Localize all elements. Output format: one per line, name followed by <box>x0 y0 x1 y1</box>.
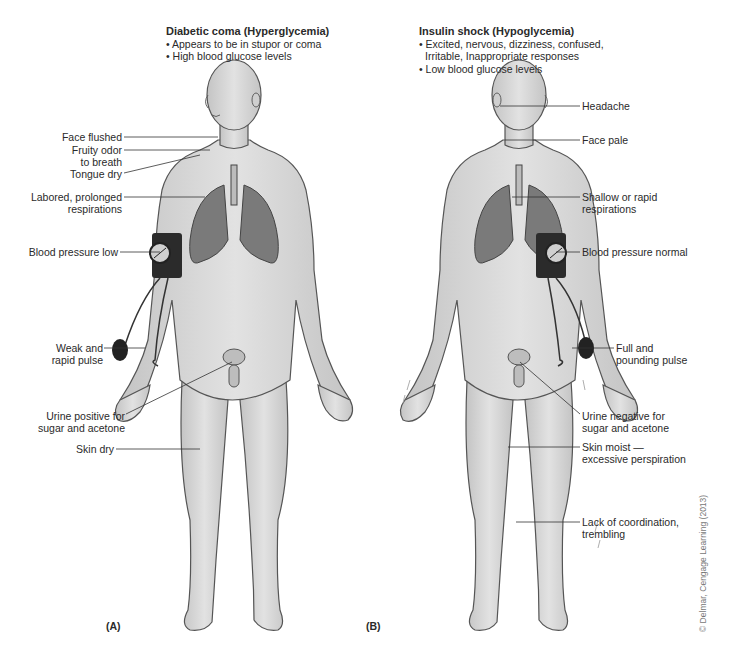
label-excessive-perspiration: excessive perspiration <box>582 453 686 466</box>
label-respirations-a: respirations <box>68 203 122 216</box>
label-lack-coordination: Lack of coordination, <box>582 516 679 529</box>
figure-a-body <box>115 60 352 630</box>
figure-a-bullet-1: • Appears to be in stupor or coma <box>166 38 329 51</box>
figure-a-bullet-2: • High blood glucose levels <box>166 50 329 63</box>
figure-a-title: Diabetic coma (Hyperglycemia) <box>166 25 329 38</box>
label-urine-positive: Urine positive for <box>46 410 125 423</box>
panel-label-b: (B) <box>366 620 381 632</box>
label-pounding-pulse: pounding pulse <box>616 354 687 367</box>
label-weak-pulse: Weak and <box>56 342 103 355</box>
figure-b-bullet-2: • Low blood glucose levels <box>419 63 604 76</box>
label-to-breath: to breath <box>81 156 122 169</box>
copyright-notice: © Delmar, Cengage Learning (2013) <box>698 495 708 632</box>
figure-b-title: Insulin shock (Hypoglycemia) <box>419 25 604 38</box>
label-sugar-acetone-a: sugar and acetone <box>38 422 125 435</box>
label-urine-negative: Urine negative for <box>582 410 665 423</box>
label-fruity-odor: Fruity odor <box>72 144 122 157</box>
label-skin-dry: Skin dry <box>76 443 114 456</box>
label-labored-respirations: Labored, prolonged <box>31 191 122 204</box>
label-tongue-dry: Tongue dry <box>70 168 122 181</box>
anatomy-illustration <box>0 0 731 659</box>
label-face-pale: Face pale <box>582 134 628 147</box>
label-bp-normal: Blood pressure normal <box>582 246 688 259</box>
figure-b-header: Insulin shock (Hypoglycemia) • Excited, … <box>419 25 604 75</box>
label-rapid-pulse: rapid pulse <box>52 354 103 367</box>
figure-b-bullet-1: • Excited, nervous, dizziness, confused, <box>419 38 604 51</box>
figure-a-header: Diabetic coma (Hyperglycemia) • Appears … <box>166 25 329 63</box>
label-full-pulse: Full and <box>616 342 653 355</box>
label-bp-low: Blood pressure low <box>29 246 118 259</box>
label-shallow-respirations: Shallow or rapid <box>582 191 657 204</box>
label-skin-moist: Skin moist — <box>582 441 644 454</box>
label-headache: Headache <box>582 100 630 113</box>
panel-label-a: (A) <box>106 620 121 632</box>
label-respirations-b: respirations <box>582 203 636 216</box>
label-face-flushed: Face flushed <box>62 131 122 144</box>
label-trembling: trembling <box>582 528 625 541</box>
figure-b-bullet-1-cont: Irritable, Inappropriate responses <box>419 50 604 63</box>
label-sugar-acetone-b: sugar and acetone <box>582 422 669 435</box>
